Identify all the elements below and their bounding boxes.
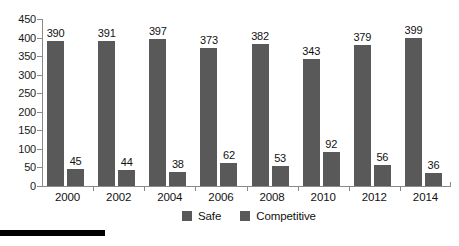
bar-value-label: 92 (317, 139, 345, 150)
y-axis-tick-label: 350 (0, 51, 36, 62)
y-axis-tick-label: 50 (0, 162, 36, 173)
x-axis-tick-mark (144, 186, 145, 191)
x-axis-tick-mark (400, 186, 401, 191)
bar-value-label: 53 (266, 153, 294, 164)
bar-competitive-2014 (425, 173, 442, 186)
legend-swatch-icon (240, 211, 250, 221)
legend-label: Safe (198, 210, 221, 222)
y-axis-tick-mark (37, 56, 42, 57)
y-axis-tick-mark (37, 19, 42, 20)
y-axis-tick-labels: 450400350300250200150100500 (0, 0, 36, 200)
x-axis-tick-mark (195, 186, 196, 191)
bar-value-label: 56 (368, 152, 396, 163)
x-axis-tick-mark (247, 186, 248, 191)
chart-legend: SafeCompetitive (182, 209, 316, 222)
x-axis-label-2010: 2010 (298, 191, 349, 204)
bar-value-label: 44 (113, 157, 141, 168)
bar-competitive-2002 (118, 170, 135, 186)
y-axis-tick-label: 0 (0, 181, 36, 192)
bar-safe-2010 (303, 59, 320, 186)
x-axis-label-2006: 2006 (195, 191, 246, 204)
legend-item-safe[interactable]: Safe (182, 210, 221, 222)
bar-competitive-2010 (323, 152, 340, 186)
y-axis-tick-mark (37, 167, 42, 168)
bar-value-label: 62 (215, 150, 243, 161)
bar-safe-2012 (354, 45, 371, 186)
x-axis-label-2000: 2000 (42, 191, 93, 204)
legend-label: Competitive (256, 210, 316, 222)
x-axis-label-2008: 2008 (247, 191, 298, 204)
bar-value-label: 379 (348, 32, 376, 43)
plot-area: 450400350300250200150100500 390453914439… (0, 0, 459, 200)
bottom-rule (0, 230, 105, 236)
legend-item-competitive[interactable]: Competitive (240, 210, 316, 222)
y-axis-tick-label: 300 (0, 70, 36, 81)
bar-competitive-2008 (272, 166, 289, 186)
bar-value-label: 373 (195, 35, 223, 46)
bar-value-label: 38 (164, 159, 192, 170)
x-axis-label-2012: 2012 (349, 191, 400, 204)
y-axis-tick-mark (37, 186, 42, 187)
x-axis-tick-mark (349, 186, 350, 191)
bar-value-label: 45 (62, 156, 90, 167)
y-axis-tick-mark (37, 130, 42, 131)
legend-swatch-icon (182, 211, 192, 221)
bar-value-label: 397 (144, 26, 172, 37)
y-axis-tick-label: 200 (0, 107, 36, 118)
y-axis-tick-mark (37, 93, 42, 94)
y-axis-tick-label: 150 (0, 125, 36, 136)
bar-safe-2006 (200, 48, 217, 186)
bar-value-label: 36 (419, 160, 447, 171)
x-axis-label-2004: 2004 (144, 191, 195, 204)
bar-chart: 450400350300250200150100500 390453914439… (0, 0, 459, 246)
x-axis-tick-mark (93, 186, 94, 191)
bar-value-label: 382 (246, 31, 274, 42)
bars-layer: 3904539144397383736238253343923795639936 (42, 0, 451, 200)
x-axis-tick-mark (298, 186, 299, 191)
x-axis-category-labels: 20002002200420062008201020122014 (42, 191, 451, 207)
bar-value-label: 391 (93, 28, 121, 39)
y-axis-tick-mark (37, 149, 42, 150)
bar-competitive-2012 (374, 165, 391, 186)
bar-safe-2008 (252, 44, 269, 186)
x-axis-label-2014: 2014 (400, 191, 451, 204)
y-axis-tick-label: 400 (0, 33, 36, 44)
bar-value-label: 399 (399, 25, 427, 36)
bar-value-label: 390 (42, 28, 70, 39)
x-axis-label-2002: 2002 (93, 191, 144, 204)
y-axis-tick-label: 250 (0, 88, 36, 99)
y-axis-tick-mark (37, 112, 42, 113)
bar-competitive-2000 (67, 169, 84, 186)
bar-value-label: 343 (297, 46, 325, 57)
bar-competitive-2004 (169, 172, 186, 186)
y-axis-tick-label: 100 (0, 144, 36, 155)
y-axis-tick-mark (37, 38, 42, 39)
bar-competitive-2006 (220, 163, 237, 186)
y-axis-tick-mark (37, 75, 42, 76)
y-axis-tick-label: 450 (0, 14, 36, 25)
